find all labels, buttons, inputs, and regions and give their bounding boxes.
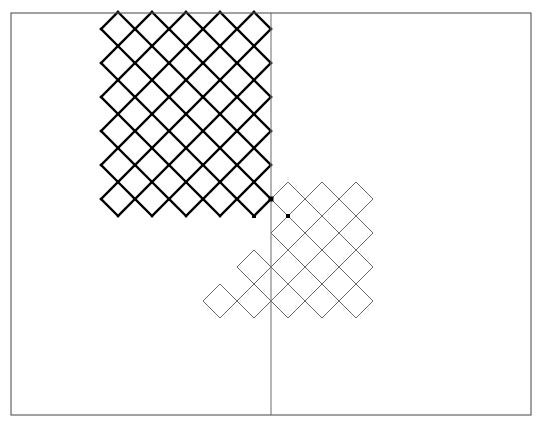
vertex-marker-left: [252, 214, 256, 218]
diagram-svg: [0, 0, 542, 427]
vertex-marker-top: [269, 197, 274, 202]
figure-canvas: [0, 0, 542, 427]
vertex-marker-right: [286, 214, 290, 218]
